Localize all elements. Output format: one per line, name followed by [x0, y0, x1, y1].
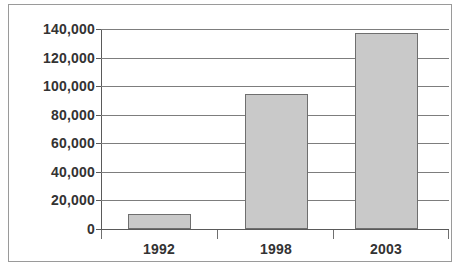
y-axis-tick-label-100000: 100,000 — [15, 78, 95, 94]
y-tick-mark-120000 — [96, 58, 101, 59]
x-axis-tick-label-1998: 1998 — [260, 241, 292, 257]
x-axis-tick-marks — [101, 230, 449, 239]
y-axis-tick-label-60000: 60,000 — [15, 135, 95, 151]
chart-frame: 140,000 120,000 100,000 80,000 60,000 40… — [8, 4, 452, 262]
y-tick-mark-140000 — [96, 29, 101, 30]
x-axis-tick-label-2003: 2003 — [370, 241, 402, 257]
y-axis-tick-label-0: 0 — [15, 221, 95, 237]
bar-1992 — [128, 214, 191, 229]
x-tick-mark-2 — [333, 230, 334, 239]
y-axis-tick-label-40000: 40,000 — [15, 164, 95, 180]
gridline-140000 — [101, 29, 449, 30]
y-tick-mark-60000 — [96, 143, 101, 144]
x-axis-tick-label-1992: 1992 — [143, 241, 175, 257]
y-tick-mark-100000 — [96, 86, 101, 87]
bar-1998 — [245, 94, 308, 229]
plot-area — [101, 29, 449, 229]
y-axis-tick-label-140000: 140,000 — [15, 21, 95, 37]
y-tick-mark-40000 — [96, 172, 101, 173]
x-axis-labels: 1992 1998 2003 — [101, 241, 449, 261]
bar-2003 — [355, 33, 418, 229]
y-axis-tick-label-120000: 120,000 — [15, 50, 95, 66]
y-axis-labels: 140,000 120,000 100,000 80,000 60,000 40… — [9, 29, 95, 229]
y-tick-mark-80000 — [96, 115, 101, 116]
y-tick-mark-20000 — [96, 200, 101, 201]
x-tick-mark-0 — [101, 230, 102, 239]
x-tick-mark-1 — [217, 230, 218, 239]
y-axis-tick-label-80000: 80,000 — [15, 107, 95, 123]
y-axis-tick-label-20000: 20,000 — [15, 192, 95, 208]
x-tick-mark-3 — [448, 230, 449, 239]
